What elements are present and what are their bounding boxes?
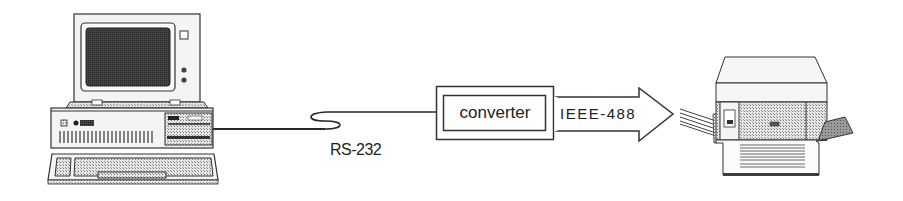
monitor-icon bbox=[66, 14, 208, 108]
converter-label: converter bbox=[449, 103, 541, 123]
system-unit-icon bbox=[51, 108, 213, 148]
diagram-canvas bbox=[0, 0, 903, 201]
rs232-label: RS-232 bbox=[330, 141, 381, 159]
rs232-cable bbox=[213, 112, 436, 129]
ieee488-label: IEEE-488 bbox=[560, 105, 636, 122]
printer-icon bbox=[680, 57, 853, 176]
keyboard-icon bbox=[48, 154, 218, 184]
computer-icon bbox=[48, 14, 218, 184]
